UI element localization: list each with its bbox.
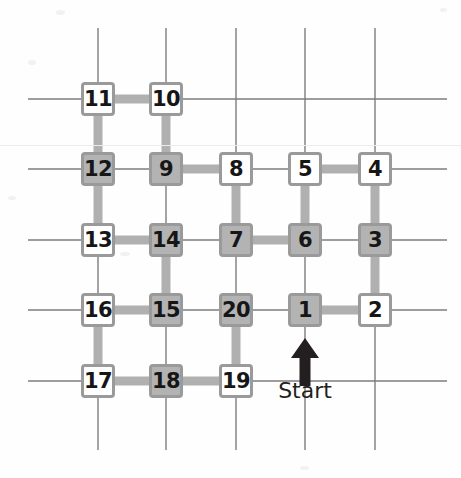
grid-node-label: 7 [229,230,243,251]
grid-node-13[interactable]: 13 [81,223,115,257]
grid-node-15[interactable]: 15 [149,293,183,327]
grid-node-9[interactable]: 9 [149,152,183,186]
grid-node-8[interactable]: 8 [219,152,253,186]
grid-path-board: 1110129854131476316152012171819 Start [0,0,461,478]
grid-node-6[interactable]: 6 [288,223,322,257]
grid-node-3[interactable]: 3 [358,223,392,257]
grid-node-18[interactable]: 18 [149,364,183,398]
grid-node-4[interactable]: 4 [358,152,392,186]
scan-artifact-line [0,145,461,146]
grid-node-11[interactable]: 11 [81,82,115,116]
grid-node-label: 1 [298,300,312,321]
grid-node-label: 19 [222,371,250,392]
grid-node-20[interactable]: 20 [219,293,253,327]
grid-node-label: 16 [84,300,112,321]
grid-node-label: 9 [159,159,173,180]
grid-node-19[interactable]: 19 [219,364,253,398]
figure-canvas: 1110129854131476316152012171819 Start [0,0,461,478]
grid-node-label: 6 [298,230,312,251]
grid-node-12[interactable]: 12 [81,152,115,186]
grid-node-label: 13 [84,230,112,251]
grid-node-label: 20 [222,300,250,321]
grid-node-label: 5 [298,159,312,180]
grid-node-7[interactable]: 7 [219,223,253,257]
grid-node-label: 8 [229,159,243,180]
grid-node-label: 15 [152,300,180,321]
grid-node-label: 2 [368,300,382,321]
start-label: Start [278,378,332,403]
grid-node-1[interactable]: 1 [288,293,322,327]
grid-node-label: 12 [84,159,112,180]
grid-node-17[interactable]: 17 [81,364,115,398]
grid-node-label: 17 [84,371,112,392]
grid-node-label: 18 [152,371,180,392]
grid-node-label: 14 [152,230,180,251]
grid-node-label: 11 [84,89,112,110]
grid-node-16[interactable]: 16 [81,293,115,327]
grid-node-2[interactable]: 2 [358,293,392,327]
grid-node-label: 3 [368,230,382,251]
grid-node-label: 10 [152,89,180,110]
grid-node-label: 4 [368,159,382,180]
grid-node-10[interactable]: 10 [149,82,183,116]
grid-node-5[interactable]: 5 [288,152,322,186]
grid-node-14[interactable]: 14 [149,223,183,257]
